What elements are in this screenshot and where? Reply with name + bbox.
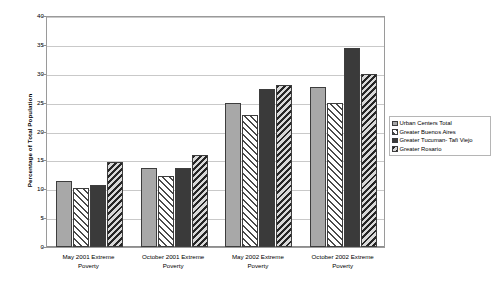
bar	[90, 185, 106, 247]
legend-label: Urban Centers Total	[400, 120, 452, 126]
x-tick-label: October 2002 ExtremePoverty	[288, 253, 398, 270]
bar	[344, 48, 360, 247]
legend-swatch-icon	[392, 138, 398, 144]
bar	[327, 103, 343, 247]
bar	[361, 74, 377, 247]
bar	[276, 85, 292, 247]
legend-item: Greater Rosario	[392, 145, 488, 154]
legend-item: Greater Buenos Aires	[392, 128, 488, 137]
bar	[107, 162, 123, 247]
y-axis-title: Percentage of Total Population	[26, 51, 33, 231]
legend-label: Greater Rosario	[400, 146, 442, 152]
y-tick-label: 40	[22, 13, 44, 19]
y-tick-label: 25	[22, 100, 44, 106]
y-tick-label: 0	[22, 244, 44, 250]
legend: Urban Centers TotalGreater Buenos AiresG…	[389, 116, 491, 156]
bar	[259, 89, 275, 247]
y-tick-label: 30	[22, 71, 44, 77]
bar-group	[47, 17, 132, 247]
bar	[158, 176, 174, 247]
y-tick-label: 35	[22, 42, 44, 48]
bar	[192, 155, 208, 247]
bar	[310, 87, 326, 247]
legend-item: Urban Centers Total	[392, 119, 488, 128]
legend-item: Greater Tucuman- Tafi Viejo	[392, 136, 488, 145]
legend-label: Greater Tucuman- Tafi Viejo	[400, 137, 473, 143]
bar	[141, 168, 157, 247]
bar	[175, 168, 191, 247]
x-tick-label-line: October 2002 Extreme	[288, 253, 398, 262]
plot-area	[46, 16, 385, 248]
x-tick-label-line: Poverty	[288, 262, 398, 271]
y-tick-label: 15	[22, 157, 44, 163]
bar	[242, 115, 258, 247]
bar-group	[217, 17, 302, 247]
legend-swatch-icon	[392, 121, 398, 127]
bar	[225, 103, 241, 247]
bar	[56, 181, 72, 247]
legend-swatch-icon	[392, 146, 398, 152]
bar-chart: Percentage of Total Population 051015202…	[0, 0, 495, 295]
bar	[73, 188, 89, 247]
legend-label: Greater Buenos Aires	[400, 129, 456, 135]
bar-group	[132, 17, 217, 247]
y-tick-label: 20	[22, 129, 44, 135]
y-tick-label: 10	[22, 186, 44, 192]
bar-group	[301, 17, 386, 247]
legend-swatch-icon	[392, 129, 398, 135]
y-tick-label: 5	[22, 215, 44, 221]
